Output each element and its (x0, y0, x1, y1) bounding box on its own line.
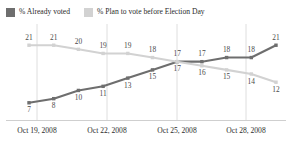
legend-item-already-voted: % Already voted (6, 8, 70, 17)
x-tick-label: Oct 28, 2008 (226, 126, 265, 135)
legend-swatch-already-voted-icon (6, 8, 15, 17)
x-tick-label: Oct 22, 2008 (87, 126, 126, 135)
data-point-marker (77, 89, 80, 92)
data-point-marker (225, 68, 228, 71)
data-point-marker (176, 60, 179, 63)
data-point-marker (27, 101, 30, 104)
legend-item-plan-to-vote: % Plan to vote before Election Day (84, 8, 205, 17)
data-point-marker (27, 44, 30, 47)
data-point-label: 21 (50, 33, 58, 42)
data-point-marker (126, 52, 129, 55)
data-point-label: 18 (223, 45, 231, 54)
data-point-label: 13 (124, 81, 132, 90)
data-point-label: 18 (149, 45, 157, 54)
data-point-marker (101, 85, 104, 88)
data-point-marker (250, 72, 253, 75)
data-point-label: 15 (223, 72, 231, 81)
data-point-label: 21 (25, 33, 33, 42)
data-point-label: 20 (75, 37, 83, 46)
x-tick-label: Oct 19, 2008 (17, 126, 56, 135)
plot-area: 7810111315171718182121212019191817161514… (0, 24, 292, 121)
data-point-label: 7 (27, 105, 31, 114)
data-point-marker (126, 76, 129, 79)
data-point-label: 11 (100, 89, 107, 98)
data-point-label: 15 (149, 72, 157, 81)
line-chart-svg: 7810111315171718182121212019191817161514… (0, 24, 292, 121)
data-point-label: 17 (198, 49, 206, 58)
legend-label-plan-to-vote: % Plan to vote before Election Day (97, 8, 205, 16)
legend-swatch-plan-to-vote-icon (84, 8, 93, 17)
data-point-marker (225, 56, 228, 59)
data-point-label: 14 (248, 77, 256, 86)
data-point-label: 21 (272, 33, 280, 42)
data-point-label: 17 (174, 49, 182, 58)
data-point-marker (274, 81, 277, 84)
data-point-marker (151, 56, 154, 59)
data-point-marker (151, 68, 154, 71)
data-point-label: 19 (124, 41, 132, 50)
data-point-marker (200, 64, 203, 67)
data-point-marker (52, 44, 55, 47)
x-axis: Oct 19, 2008 Oct 22, 2008 Oct 25, 2008 O… (0, 124, 292, 145)
data-point-label: 16 (198, 68, 206, 77)
data-point-marker (101, 52, 104, 55)
x-tick-label: Oct 25, 2008 (157, 126, 196, 135)
chart-container: % Already voted % Plan to vote before El… (0, 0, 292, 145)
data-point-marker (52, 97, 55, 100)
data-point-label: 18 (248, 45, 256, 54)
data-point-marker (274, 44, 277, 47)
data-point-marker (77, 48, 80, 51)
data-point-label: 19 (99, 41, 107, 50)
data-point-marker (200, 60, 203, 63)
data-point-marker (250, 56, 253, 59)
data-point-label: 8 (52, 101, 56, 110)
chart-legend: % Already voted % Plan to vote before El… (0, 0, 292, 24)
data-point-label: 12 (272, 85, 280, 94)
legend-label-already-voted: % Already voted (19, 8, 70, 16)
data-point-label: 17 (174, 64, 182, 73)
data-point-label: 10 (75, 93, 83, 102)
